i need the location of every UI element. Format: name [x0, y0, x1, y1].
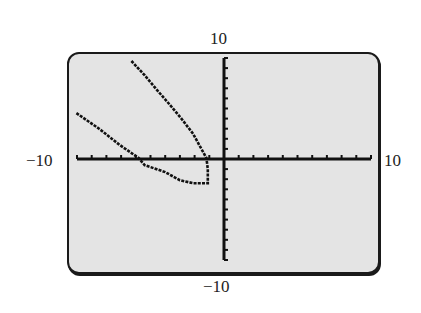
- graph-plot: [0, 0, 421, 313]
- axes: [77, 58, 371, 260]
- graphed-curve: [76, 61, 208, 183]
